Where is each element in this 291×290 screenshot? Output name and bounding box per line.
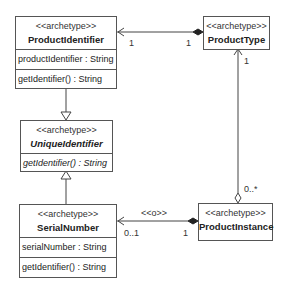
- operation: getIdentifier() : String: [16, 69, 116, 89]
- class-name: SerialNumber: [20, 222, 116, 237]
- stereotype: <<archetype>>: [199, 207, 272, 219]
- class-product-instance[interactable]: <<archetype>> ProductInstance: [198, 203, 273, 241]
- class-product-type[interactable]: <<archetype>> ProductType: [203, 16, 270, 50]
- attribute: productIdentifier : String: [16, 49, 116, 69]
- multiplicity-label: 1: [244, 56, 249, 66]
- association-stereotype: <<o>>: [141, 208, 167, 218]
- class-header: <<archetype>> SerialNumber: [20, 205, 116, 237]
- class-product-identifier[interactable]: <<archetype>> ProductIdentifier productI…: [15, 16, 117, 89]
- association-type-identifier: [117, 28, 203, 36]
- stereotype: <<archetype>>: [20, 208, 116, 220]
- stereotype: <<archetype>>: [204, 20, 269, 32]
- generalization-productidentifier: [61, 88, 71, 120]
- multiplicity-label: 0..1: [124, 228, 139, 238]
- stereotype: <<archetype>>: [16, 20, 116, 32]
- association-type-instance: [234, 49, 242, 203]
- stereotype: <<archetype>>: [21, 124, 112, 136]
- class-unique-identifier[interactable]: <<archetype>> UniqueIdentifier getIdenti…: [20, 120, 113, 172]
- class-name: ProductType: [204, 34, 269, 49]
- class-serial-number[interactable]: <<archetype>> SerialNumber serialNumber …: [19, 204, 117, 278]
- multiplicity-label: 0..*: [244, 184, 258, 194]
- operation: getIdentifier() : String: [21, 153, 112, 173]
- multiplicity-label: 1: [129, 38, 134, 48]
- multiplicity-label: 1: [183, 228, 188, 238]
- class-name: ProductIdentifier: [16, 34, 116, 49]
- class-header: <<archetype>> UniqueIdentifier: [21, 121, 112, 153]
- attribute: serialNumber : String: [20, 237, 116, 257]
- operation: getIdentifier() : String: [20, 257, 116, 277]
- class-header: <<archetype>> ProductType: [204, 17, 269, 49]
- class-name: ProductInstance: [199, 221, 272, 236]
- association-instance-serial: [117, 217, 198, 225]
- class-header: <<archetype>> ProductIdentifier: [16, 17, 116, 49]
- multiplicity-label: 1: [186, 38, 191, 48]
- class-name: UniqueIdentifier: [21, 138, 112, 153]
- class-header: <<archetype>> ProductInstance: [199, 204, 272, 236]
- generalization-serialnumber: [61, 171, 71, 204]
